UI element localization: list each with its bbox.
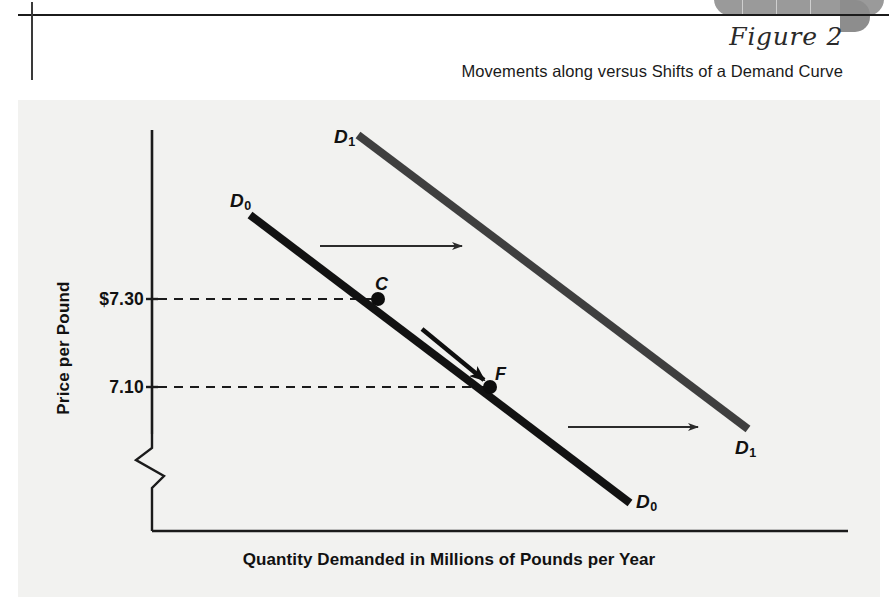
- figure-caption: Movements along versus Shifts of a Deman…: [461, 62, 843, 81]
- curve-d1: [358, 135, 748, 429]
- curve-label-d0-lower-sub: 0: [650, 500, 657, 514]
- curve-label-d1-upper-sub: 1: [348, 135, 355, 149]
- point-label-c: C: [375, 274, 388, 295]
- y-tick-label-730: $7.30: [26, 289, 144, 310]
- page-corner-tab-shadow: [840, 0, 870, 32]
- demand-curve-chart: [18, 100, 880, 597]
- figure-number: Figure 2: [729, 22, 843, 51]
- curve-label-d0-lower-text: D: [636, 491, 650, 512]
- curve-label-d0-upper-sub: 0: [244, 199, 251, 213]
- curve-label-d1-lower: D1: [735, 437, 756, 459]
- curve-label-d1-upper: D1: [334, 126, 355, 148]
- x-axis-title: Quantity Demanded in Millions of Pounds …: [18, 550, 880, 570]
- point-label-f: F: [495, 364, 506, 385]
- y-tick-label-710: 7.10: [26, 377, 144, 398]
- figure-page: Figure 2 Movements along versus Shifts o…: [0, 0, 889, 609]
- curve-d0: [250, 215, 630, 503]
- y-axis-break-zigzag: [136, 434, 164, 531]
- curve-label-d1-lower-text: D: [735, 437, 749, 458]
- header-rule-vertical: [31, 2, 33, 80]
- chart-panel: Price per Pound Quantity Demanded in Mil…: [18, 100, 880, 597]
- curve-label-d1-upper-text: D: [334, 126, 348, 147]
- curve-label-d1-lower-sub: 1: [749, 446, 756, 460]
- curve-label-d0-lower: D0: [636, 491, 657, 513]
- curve-label-d0-upper-text: D: [230, 190, 244, 211]
- curve-label-d0-upper: D0: [230, 190, 251, 212]
- header-rule-horizontal: [18, 14, 889, 16]
